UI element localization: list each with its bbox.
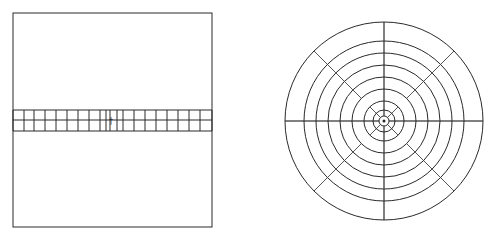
radial-spoke bbox=[388, 125, 392, 129]
radial-spoke bbox=[441, 178, 454, 191]
radial-spoke bbox=[441, 51, 454, 64]
radial-spoke bbox=[353, 144, 361, 152]
radial-spoke bbox=[327, 169, 335, 177]
radial-spoke bbox=[392, 107, 398, 113]
figure-canvas: † bbox=[0, 0, 493, 237]
radial-spoke bbox=[370, 129, 376, 135]
radial-spoke bbox=[314, 51, 327, 64]
radial-spoke bbox=[432, 169, 440, 177]
radial-spoke bbox=[388, 113, 392, 117]
radial-spoke bbox=[376, 125, 380, 129]
radial-spoke bbox=[432, 64, 440, 72]
radial-spoke bbox=[415, 81, 423, 89]
radial-spoke bbox=[336, 73, 344, 81]
radial-spoke bbox=[424, 161, 432, 169]
radial-spoke bbox=[336, 161, 344, 169]
radial-spoke bbox=[353, 90, 361, 98]
radial-spoke bbox=[314, 178, 327, 191]
radial-spoke bbox=[415, 152, 423, 160]
concentric-ring-grid-diagram bbox=[285, 22, 483, 220]
radial-spoke bbox=[424, 73, 432, 81]
radial-spoke bbox=[407, 90, 415, 98]
radial-spoke bbox=[370, 107, 376, 113]
square-strip-grid-diagram: † bbox=[13, 13, 212, 227]
radial-spoke bbox=[376, 113, 380, 117]
center-point bbox=[383, 120, 386, 123]
radial-spoke bbox=[327, 64, 335, 72]
source-marker: † bbox=[109, 117, 113, 126]
radial-spoke bbox=[344, 152, 352, 160]
radial-spoke bbox=[407, 144, 415, 152]
radial-spoke bbox=[344, 81, 352, 89]
radial-spoke bbox=[392, 129, 398, 135]
